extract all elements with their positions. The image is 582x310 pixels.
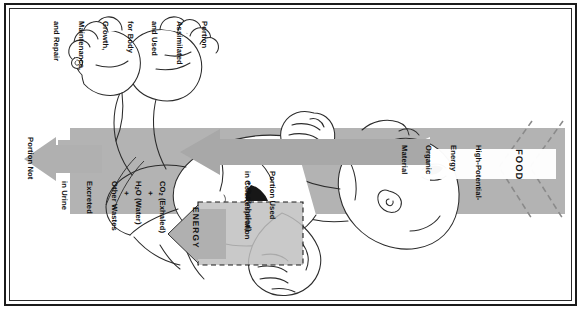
- diagram-figure: FOOD High-Potential- Energy Organic Mate…: [0, 0, 582, 310]
- food-descriptor-line-4: Material: [400, 145, 408, 201]
- other-wastes-line-2: Excreted: [85, 181, 93, 231]
- diagram-stage: FOOD High-Potential- Energy Organic Mate…: [10, 9, 571, 300]
- label-oxygen: + O2 (Inhaled): [225, 181, 268, 232]
- assimilated-line-5: Growth,: [101, 21, 109, 70]
- food-descriptor-line-2: Energy: [449, 145, 457, 201]
- assimilated-line-2: Assimilated: [175, 21, 183, 70]
- not-digested-line-1: Portion Not: [25, 137, 33, 201]
- oxygen-prefix: + O: [244, 181, 253, 194]
- assimilated-line-4: for Body: [126, 21, 134, 70]
- other-wastes-line-1: Other Wastes: [109, 181, 117, 231]
- label-food: FOOD: [493, 149, 544, 180]
- assimilated-line-3: and Used: [150, 21, 158, 70]
- other-wastes-line-3: in Urine: [60, 181, 68, 231]
- label-food-text: FOOD: [514, 149, 524, 180]
- label-other-wastes: Other Wastes Excreted in Urine: [44, 181, 134, 231]
- food-descriptor-line-1: High-Potential-: [473, 145, 481, 201]
- oxygen-text: + O2 (Inhaled): [242, 181, 252, 232]
- label-assimilated: Portion Assimilated and Used for Body Gr…: [36, 21, 224, 70]
- cell-respiration-line-1: Portion Used: [267, 171, 275, 240]
- label-food-descriptor: High-Potential- Energy Organic Material: [383, 145, 498, 201]
- oxygen-suffix: (Inhaled): [244, 197, 253, 232]
- assimilated-line-6: Maintenance,: [77, 21, 85, 70]
- assimilated-line-7: and Repair: [52, 21, 60, 70]
- food-descriptor-line-3: Organic: [424, 145, 432, 201]
- assimilated-line-1: Portion: [199, 21, 207, 70]
- energy-text: ENERGY: [191, 207, 200, 249]
